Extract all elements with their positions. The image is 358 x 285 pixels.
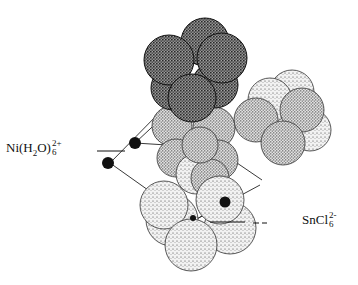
diagram-canvas: Ni(H2O)2+6 SnCl2-6	[0, 0, 358, 285]
bottom-sphere-cluster	[140, 176, 256, 271]
tin-complex-label: SnCl2-6	[302, 212, 337, 230]
nickel-complex-label: Ni(H2O)2+6	[6, 140, 62, 158]
right-sphere-cluster	[234, 70, 331, 165]
top-sphere-cluster	[144, 18, 247, 122]
